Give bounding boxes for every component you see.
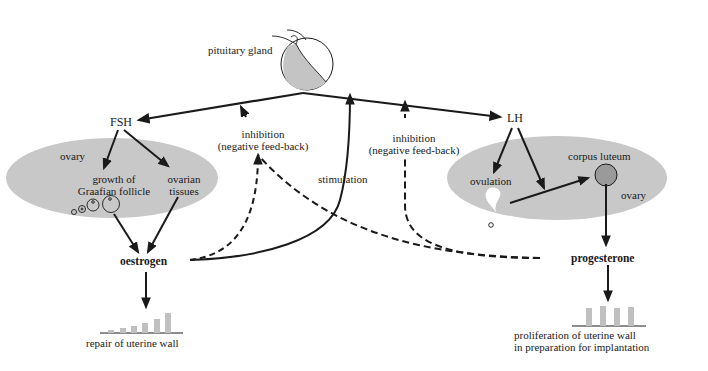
tissues-line2: tissues: [154, 185, 214, 197]
edge-pituitary-lh: [303, 93, 500, 117]
inhibition-right-line2: (negative feed-back): [354, 144, 474, 156]
progesterone-label: progesterone: [571, 252, 634, 264]
ovary-left-label: ovary: [60, 150, 85, 162]
edge-pituitary-fsh: [139, 93, 303, 120]
stimulation-label: stimulation: [318, 173, 368, 185]
ovarian-tissues-label: ovarian tissues: [154, 173, 214, 197]
oestrogen-label: oestrogen: [120, 255, 167, 267]
uterine-wall-proliferation-icon: [572, 306, 646, 326]
tissues-line1: ovarian: [154, 173, 214, 185]
proliferation-line1: proliferation of uterine wall: [514, 329, 649, 341]
graafian-follicle-label: growth of Graafian follicle: [64, 173, 164, 197]
proliferation-line2: in preparation for implantation: [514, 341, 649, 353]
edge-follicle-oestrogen: [114, 214, 138, 252]
fsh-label: FSH: [110, 116, 132, 128]
inhibition-left-line2: (negative feed-back): [203, 140, 323, 152]
corpus-luteum-icon: [595, 164, 617, 186]
pituitary-gland-label: pituitary gland: [208, 44, 272, 56]
repair-uterine-wall-label: repair of uterine wall: [86, 337, 179, 349]
uterine-wall-repair-icon: [100, 313, 183, 333]
growth-line2: Graafian follicle: [64, 185, 164, 197]
inhibition-right-label: inhibition (negative feed-back): [354, 132, 474, 156]
corpus-luteum-label: corpus luteum: [568, 150, 631, 162]
proliferation-label: proliferation of uterine wall in prepara…: [514, 329, 649, 353]
hormone-diagram: pituitary gland FSH LH inhibition (negat…: [0, 0, 708, 371]
lh-label: LH: [507, 112, 523, 124]
edge-inhibition-left-tip: [241, 107, 246, 117]
inhibition-left-line1: inhibition: [203, 128, 323, 140]
inhibition-right-line1: inhibition: [354, 132, 474, 144]
growth-line1: growth of: [64, 173, 164, 185]
ovulation-label: ovulation: [470, 175, 512, 187]
ovary-right-label: ovary: [621, 189, 646, 201]
inhibition-left-label: inhibition (negative feed-back): [203, 128, 323, 152]
pituitary-gland-icon: [272, 30, 333, 90]
